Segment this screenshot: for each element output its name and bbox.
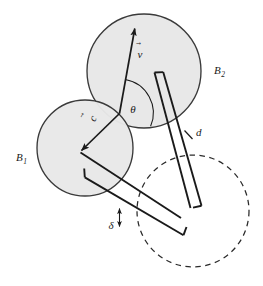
measurement-tick-d <box>185 131 193 140</box>
geometry-figure: B2 B1 v ⃗ c ⃗ θ d δ <box>0 0 263 286</box>
label-disk-b2: B2 <box>214 64 225 79</box>
diagram-canvas: B2 B1 v ⃗ c ⃗ θ d δ <box>0 0 263 286</box>
disk-projected-dashed <box>137 155 249 267</box>
label-angle-theta: θ <box>130 103 136 115</box>
label-clearance-delta: δ <box>108 219 114 231</box>
label-distance-d: d <box>196 126 202 138</box>
label-disk-b1: B1 <box>16 151 27 166</box>
svg-text:v: v <box>138 48 143 60</box>
